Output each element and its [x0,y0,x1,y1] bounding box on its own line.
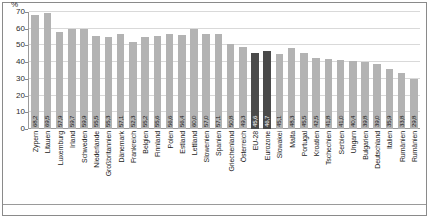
category-label-slot: Malta [288,131,296,201]
category-label-slot: Litauen [44,131,52,201]
bar-item[interactable]: 56,4 [178,12,186,129]
bar[interactable] [215,34,223,129]
bar-value-label: 41,0 [336,116,343,127]
category-label: Serbien [337,131,344,154]
category-label-slot: Spanien [215,131,223,201]
bar-item[interactable]: 48,3 [288,12,296,129]
category-label: Luxemburg [56,131,63,165]
bar-item[interactable]: 57,1 [117,12,125,129]
bar-item[interactable]: 68,2 [31,12,39,129]
bar-item[interactable]: 52,3 [129,12,137,129]
bar-item[interactable]: 41,8 [325,12,333,129]
category-label: Polen [166,131,173,148]
bar-value-label: 60,0 [190,116,197,127]
y-tick-label: 20 [3,92,25,100]
category-label: Litauen [44,131,51,153]
bar-value-label: 41,8 [324,116,331,127]
bar-item[interactable]: 50,8 [227,12,235,129]
bar-value-label: 45,1 [275,116,282,127]
category-label-slot: Deutschland [373,131,381,201]
bar-value-label: 46,7 [263,116,270,127]
bar-value-label: 59,7 [67,116,74,127]
category-label: Lettland [191,131,198,155]
bar-value-label: 39,0 [373,116,380,127]
bar-item[interactable]: 40,4 [349,12,357,129]
category-label-slot: Rumänien [398,131,406,201]
bar-item[interactable]: 39,0 [373,12,381,129]
y-axis-ticks: 010203040506070 [0,12,25,129]
category-label: Slowakei [276,131,283,158]
bar-item[interactable]: 29,8 [410,12,418,129]
bar-item[interactable]: 55,6 [154,12,162,129]
bar-item[interactable]: 39,8 [361,12,369,129]
category-label: Bulgarien [362,131,369,160]
category-label-slot: Kroatien [312,131,320,201]
bar-item[interactable]: 55,2 [141,12,149,129]
bar-value-label: 59,9 [80,116,87,127]
bar-item[interactable]: 45,6 [251,12,259,129]
category-label: Frankreich [130,131,137,163]
category-label-slot: EU-28 [251,131,259,201]
bar-series: 68,269,557,959,759,955,555,357,152,355,2… [29,12,420,129]
bar-item[interactable]: 55,3 [105,12,113,129]
category-label: Malta [288,131,295,148]
bar-item[interactable]: 33,8 [398,12,406,129]
category-label-slot: Frankreich [129,131,137,201]
bar-item[interactable]: 49,3 [239,12,247,129]
category-label: Zypern [32,131,39,152]
bar-value-label: 39,8 [361,116,368,127]
bar[interactable] [56,32,64,129]
bar-value-label: 56,6 [165,116,172,127]
y-tick-mark [25,129,28,130]
category-label-slot: Polen [166,131,174,201]
bar[interactable] [190,29,198,129]
bar-value-label: 55,3 [104,116,111,127]
bar-item[interactable]: 57,9 [56,12,64,129]
category-label-slot: Zypern [31,131,39,201]
category-label-slot: Rumänien [410,131,418,201]
y-tick-label: 30 [3,75,25,83]
bar-item[interactable]: 55,5 [92,12,100,129]
bar-value-label: 69,5 [43,116,50,127]
category-label: Spanien [215,131,222,156]
bar[interactable] [44,13,52,129]
bar[interactable] [68,29,76,129]
bar-value-label: 48,3 [287,116,294,127]
bar-item[interactable]: 57,0 [202,12,210,129]
category-axis-labels: ZypernLitauenLuxemburgIrlandSchwedenNied… [29,131,420,201]
bar-item[interactable]: 60,0 [190,12,198,129]
category-label: Österreich [240,131,247,162]
category-label: Großbritannien [105,131,112,176]
category-label: Dänemark [117,131,124,163]
bar-item[interactable]: 45,1 [276,12,284,129]
bar-value-label: 50,8 [226,116,233,127]
bar-item[interactable]: 69,5 [44,12,52,129]
chart-container: % 010203040506070 68,269,557,959,759,955… [0,0,429,219]
category-label-slot: Serbien [337,131,345,201]
bar[interactable] [202,34,210,129]
bar-value-label: 45,6 [251,116,258,127]
category-label: Eurozone [264,131,271,160]
bar-item[interactable]: 56,6 [166,12,174,129]
bar-item[interactable]: 57,1 [215,12,223,129]
bar-item[interactable]: 45,5 [300,12,308,129]
bar[interactable] [117,34,125,129]
bar-item[interactable]: 59,7 [68,12,76,129]
category-label-slot: Eurozone [263,131,271,201]
bar[interactable] [80,29,88,129]
category-label-slot: Tschechien [325,131,333,201]
category-label: Deutschland [374,131,381,169]
bar-item[interactable]: 59,9 [80,12,88,129]
bar-value-label: 68,2 [31,116,38,127]
category-label: Belgien [142,131,149,154]
category-label-slot: Luxemburg [56,131,64,201]
y-tick-label: 10 [3,108,25,116]
bar-item[interactable]: 35,9 [386,12,394,129]
bar[interactable] [31,15,39,129]
category-label-slot: Griechenland [227,131,235,201]
bar-item[interactable]: 46,7 [263,12,271,129]
bar-item[interactable]: 42,5 [312,12,320,129]
category-label-slot: Großbritannien [105,131,113,201]
category-label-slot: Ungarn [349,131,357,201]
bar-item[interactable]: 41,0 [337,12,345,129]
